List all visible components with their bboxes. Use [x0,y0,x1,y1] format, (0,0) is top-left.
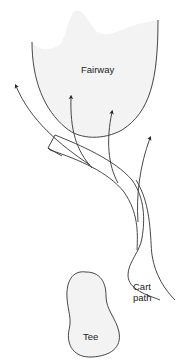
cart-path-label-line2: path [133,292,152,303]
tee-box [67,272,120,357]
golf-hole-diagram [0,0,184,360]
cart-path-label: Cart path [133,281,152,303]
shot-arrow-right [138,138,151,222]
cart-path-label-line1: Cart [133,281,152,292]
cart-path-lower-edge [50,150,137,250]
cart-path [48,135,175,300]
cart-path-upper-edge [55,135,160,300]
fairway-label: Fairway [81,64,114,75]
tee-label: Tee [83,331,98,342]
